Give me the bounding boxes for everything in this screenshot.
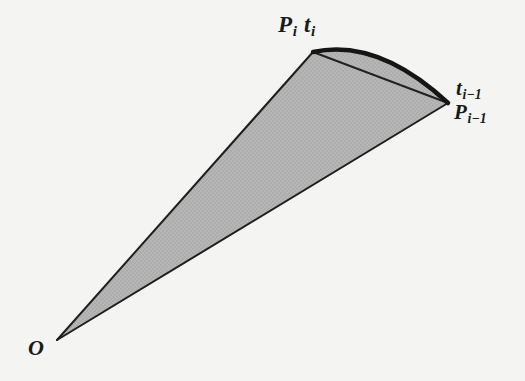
label-pi-symbol: P <box>278 12 292 37</box>
sector-diagram-svg <box>0 0 525 381</box>
label-ti-subscript: i <box>311 22 316 39</box>
label-pi-subscript: i <box>292 22 297 39</box>
label-p-symbol: P <box>454 100 467 124</box>
label-origin-o: O <box>28 337 44 359</box>
figure-canvas: Piti ti−1 Pi−1 O <box>0 0 525 381</box>
shaded-sector-region <box>57 50 448 340</box>
label-tangent-ti-minus-1: ti−1 <box>456 78 482 102</box>
label-ti-symbol: t <box>304 12 311 37</box>
label-p-subscript: i−1 <box>467 111 487 126</box>
label-point-pi-minus-1: Pi−1 <box>454 102 487 126</box>
label-point-pi-tangent-ti: Piti <box>278 13 315 38</box>
